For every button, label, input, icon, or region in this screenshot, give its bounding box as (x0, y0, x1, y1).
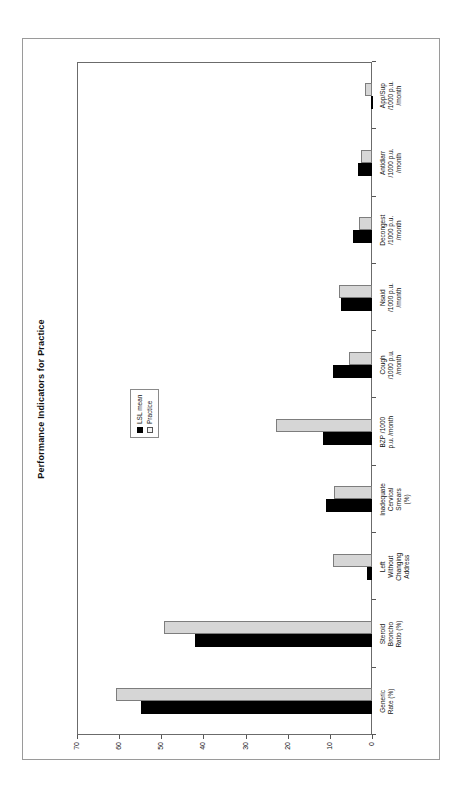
bar-lsl-mean (326, 499, 372, 512)
category-label: Left Without Changing Address (379, 535, 411, 598)
category-tick-mark (372, 532, 376, 533)
bar-lsl-mean (358, 163, 372, 176)
chart-rotated-canvas: Performance Indicators for Practice 7060… (22, 38, 440, 760)
axis-tick-mark (77, 735, 78, 739)
bar-lsl-mean (195, 634, 372, 647)
axis-tick-label: 20 (284, 742, 291, 760)
axis-tick-mark (246, 735, 247, 739)
category-tick-mark (372, 465, 376, 466)
bar-lsl-mean (141, 701, 372, 714)
category-tick-mark (372, 128, 376, 129)
axis-tick-label: 60 (115, 742, 122, 760)
category-label: Decongest /1000 p.u. /month (379, 199, 403, 262)
category-label: Cough /1000 p.u. /month (379, 333, 403, 396)
category-label: Generic Rate (%) (379, 670, 395, 733)
bar-practice (164, 621, 372, 634)
category-label: Nsaid /1000 p.u. /month (379, 266, 403, 329)
category-tick-mark (372, 330, 376, 331)
legend-swatch-lsl-mean (137, 427, 143, 433)
axis-tick-mark (119, 735, 120, 739)
axis-tick-label: 70 (73, 742, 80, 760)
axis-tick-label: 50 (157, 742, 164, 760)
axis-tick-label: 10 (326, 742, 333, 760)
bar-practice (116, 688, 372, 701)
category-tick-mark (372, 196, 376, 197)
chart-legend: LSL mean Practice (130, 389, 159, 438)
category-tick-mark (372, 61, 376, 62)
bar-practice (365, 83, 372, 96)
axis-tick-mark (203, 735, 204, 739)
category-tick-mark (372, 263, 376, 264)
axis-tick-label: 0 (368, 742, 375, 760)
category-label: Steroid Broncho Ratio (%) (379, 602, 403, 665)
chart-title: Performance Indicators for Practice (36, 38, 46, 760)
bar-practice (276, 419, 372, 432)
legend-label-practice: Practice (146, 401, 153, 424)
bar-practice (359, 217, 372, 230)
axis-tick-mark (161, 735, 162, 739)
axis-tick-mark (288, 735, 289, 739)
bar-lsl-mean (371, 96, 373, 109)
category-tick-mark (372, 398, 376, 399)
bar-practice (339, 285, 372, 298)
bar-lsl-mean (367, 567, 372, 580)
category-tick-mark (372, 667, 376, 668)
axis-tick-label: 30 (242, 742, 249, 760)
axis-tick-label: 40 (199, 742, 206, 760)
category-label: App/Sup /1000 p.u. /month (379, 64, 403, 127)
category-label: BZP /1000 p.u. /month (379, 401, 395, 464)
bar-practice (333, 554, 372, 567)
axis-tick-mark (372, 735, 373, 739)
axis-tick-mark (330, 735, 331, 739)
legend-label-lsl-mean: LSL mean (136, 395, 143, 424)
category-tick-mark (372, 734, 376, 735)
legend-item-lsl-mean: LSL mean (135, 395, 144, 433)
bar-practice (334, 486, 372, 499)
bar-practice (361, 150, 372, 163)
bar-practice (349, 352, 372, 365)
bar-lsl-mean (353, 230, 372, 243)
bar-lsl-mean (341, 298, 372, 311)
chart-page: Performance Indicators for Practice 7060… (0, 0, 462, 795)
category-label: Inadequate Cervical Smears (%) (379, 468, 411, 531)
bar-lsl-mean (323, 432, 372, 445)
bar-lsl-mean (333, 365, 372, 378)
legend-swatch-practice (147, 427, 153, 433)
category-tick-mark (372, 599, 376, 600)
legend-item-practice: Practice (145, 395, 154, 433)
category-label: Antidiarr /1000 p.u. /month (379, 131, 403, 194)
